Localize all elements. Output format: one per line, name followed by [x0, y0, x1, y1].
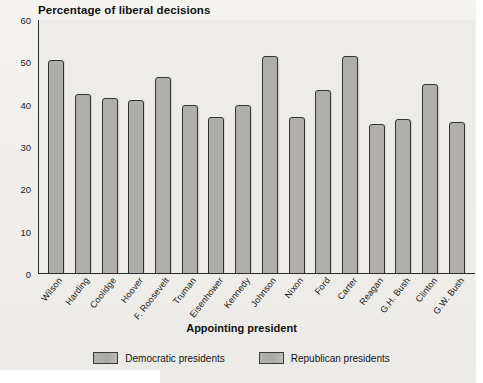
y-axis-tick-0: 0: [26, 269, 31, 280]
legend-swatch-icon: [259, 352, 284, 364]
y-axis-tick-60: 60: [20, 15, 31, 26]
bar-group: [39, 20, 475, 274]
y-axis-tick-40: 40: [20, 99, 31, 110]
bar-slot: [390, 20, 417, 274]
plot-area: [38, 20, 475, 274]
bar[interactable]: [155, 77, 171, 274]
bar[interactable]: [75, 94, 91, 274]
bar-slot: [203, 20, 230, 274]
x-label-slot: Nixon: [283, 274, 310, 322]
bar-slot: [230, 20, 257, 274]
x-label-slot: Ford: [310, 274, 337, 322]
x-axis-title: Appointing president: [0, 322, 483, 334]
chart-legend: Democratic presidentsRepublican presiden…: [0, 352, 483, 364]
bar-chart-figure: Percentage of liberal decisions 60504030…: [0, 0, 483, 383]
page-edge-bottom: [0, 370, 160, 383]
bar-slot: [150, 20, 177, 274]
legend-item[interactable]: Democratic presidents: [93, 352, 224, 364]
bar[interactable]: [342, 56, 358, 274]
bar[interactable]: [262, 56, 278, 274]
x-axis-label: Ford: [312, 275, 332, 296]
bar[interactable]: [48, 60, 64, 274]
x-label-slot: G.W. Bush: [443, 274, 470, 322]
x-axis-label: Clinton: [413, 275, 439, 304]
x-axis-label: Truman: [171, 275, 198, 306]
bar-slot: [43, 20, 70, 274]
x-axis-tick-labels: WilsonHardingCoolidgeHooverF. RooseveltT…: [38, 274, 475, 322]
bar-slot: [363, 20, 390, 274]
bar[interactable]: [128, 100, 144, 274]
legend-swatch-icon: [93, 352, 118, 364]
x-axis-label: Carter: [335, 275, 359, 301]
legend-label: Republican presidents: [291, 353, 390, 364]
x-axis-label: Hoover: [119, 275, 145, 305]
bar-slot: [417, 20, 444, 274]
y-axis-tick-50: 50: [20, 57, 31, 68]
bar[interactable]: [289, 117, 305, 274]
bar-slot: [283, 20, 310, 274]
bar[interactable]: [369, 124, 385, 274]
bar-slot: [310, 20, 337, 274]
x-axis-label: Wilson: [40, 275, 65, 303]
bar[interactable]: [208, 117, 224, 274]
legend-item[interactable]: Republican presidents: [259, 352, 390, 364]
y-axis-tick-30: 30: [20, 142, 31, 153]
legend-label: Democratic presidents: [125, 353, 224, 364]
bar-slot: [96, 20, 123, 274]
chart-title: Percentage of liberal decisions: [38, 4, 210, 16]
bar[interactable]: [182, 105, 198, 274]
bar[interactable]: [315, 90, 331, 274]
bar[interactable]: [422, 84, 438, 275]
bar-slot: [70, 20, 97, 274]
bar[interactable]: [235, 105, 251, 274]
bar-slot: [257, 20, 284, 274]
y-axis-tick-labels: 6050403020100: [0, 20, 36, 274]
page-edge-right: [476, 0, 483, 383]
x-axis-label: Nixon: [283, 275, 305, 300]
bar-slot: [123, 20, 150, 274]
bar[interactable]: [395, 119, 411, 274]
bar[interactable]: [449, 122, 465, 274]
x-label-slot: Johnson: [256, 274, 283, 322]
bar-slot: [337, 20, 364, 274]
bar-slot: [176, 20, 203, 274]
bar-slot: [443, 20, 470, 274]
y-axis-tick-20: 20: [20, 184, 31, 195]
bar[interactable]: [102, 98, 118, 274]
y-axis-tick-10: 10: [20, 226, 31, 237]
